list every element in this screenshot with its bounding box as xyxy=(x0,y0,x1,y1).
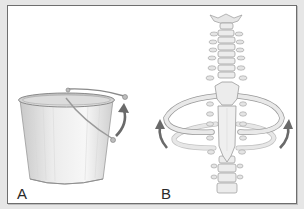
panel-label-b: B xyxy=(161,186,171,201)
bucket-icon xyxy=(8,6,152,203)
panel-a: A xyxy=(8,6,152,203)
panel-label-a: A xyxy=(17,186,27,201)
spine-ribcage-icon xyxy=(152,6,296,203)
figure-frame: A xyxy=(7,5,297,204)
panel-b: B xyxy=(152,6,296,203)
curved-up-arrow xyxy=(116,103,129,136)
